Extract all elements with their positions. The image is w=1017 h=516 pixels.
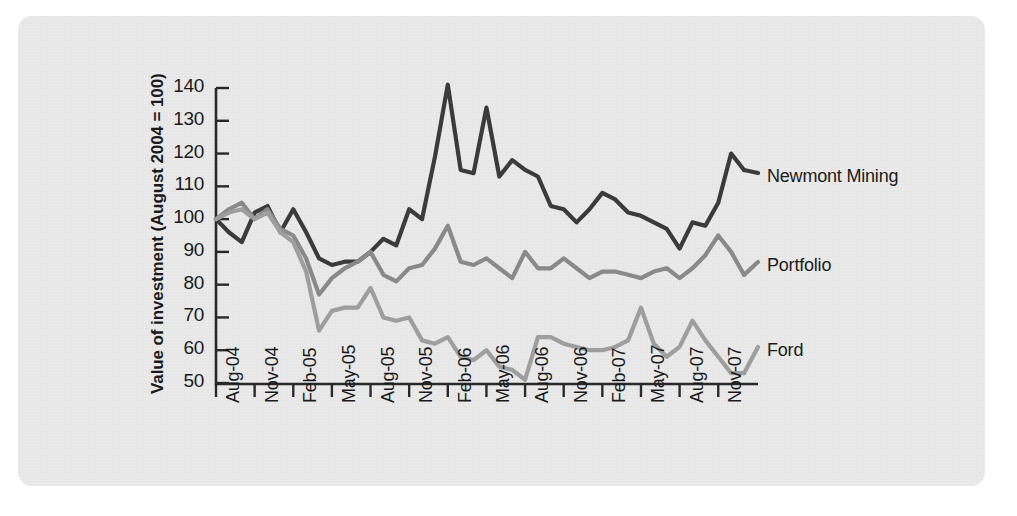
leader-line-ford: [744, 347, 758, 373]
chart-plot-area: Value of investment (August 2004 = 100) …: [0, 0, 1017, 516]
series-lines: [216, 85, 744, 380]
x-tick-label: May-07: [648, 345, 669, 403]
y-tick-label: 60: [160, 337, 204, 359]
x-tick-label: Nov-06: [571, 347, 592, 403]
y-tick-label: 90: [160, 239, 204, 261]
y-tick-label: 80: [160, 272, 204, 294]
x-tick-label: Nov-04: [262, 347, 283, 403]
x-tick-label: Feb-06: [455, 348, 476, 403]
y-tick-label: 70: [160, 304, 204, 326]
chart-screenshot: Value of investment (August 2004 = 100) …: [0, 0, 1017, 516]
x-tick-label: Aug-04: [223, 347, 244, 403]
y-tick-label: 50: [160, 370, 204, 392]
x-tick-label: Aug-06: [532, 347, 553, 403]
y-tick-label: 130: [160, 108, 204, 130]
y-tick-label: 120: [160, 141, 204, 163]
x-tick-label: Aug-07: [687, 347, 708, 403]
x-tick-label: Nov-07: [725, 347, 746, 403]
x-tick-label: Aug-05: [378, 347, 399, 403]
legend-leader-lines: [744, 170, 758, 373]
x-tick-label: Feb-07: [609, 348, 630, 403]
x-tick-label: May-06: [493, 345, 514, 403]
x-tick-label: May-05: [339, 345, 360, 403]
series-label-newmont-mining: Newmont Mining: [767, 166, 898, 187]
y-tick-label: 100: [160, 206, 204, 228]
axes-group: [216, 88, 758, 385]
series-label-ford: Ford: [767, 340, 803, 361]
y-tick-label: 110: [160, 173, 204, 195]
series-label-portfolio: Portfolio: [767, 255, 831, 276]
leader-line-newmont-mining: [744, 170, 758, 173]
leader-line-portfolio: [744, 262, 758, 275]
x-tick-label: Feb-05: [300, 348, 321, 403]
y-tick-label: 140: [160, 75, 204, 97]
x-tick-label: Nov-05: [416, 347, 437, 403]
